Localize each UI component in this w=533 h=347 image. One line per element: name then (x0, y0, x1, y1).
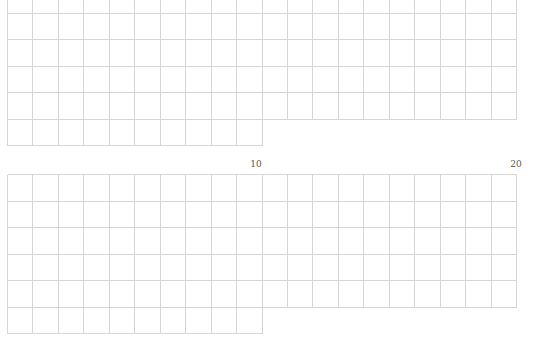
label-twenty: 20 (510, 159, 522, 169)
upper-grid (8, 0, 517, 146)
lower-grid (8, 175, 517, 334)
label-ten: 10 (250, 159, 262, 169)
grid-canvas: 10 20 (0, 0, 533, 347)
